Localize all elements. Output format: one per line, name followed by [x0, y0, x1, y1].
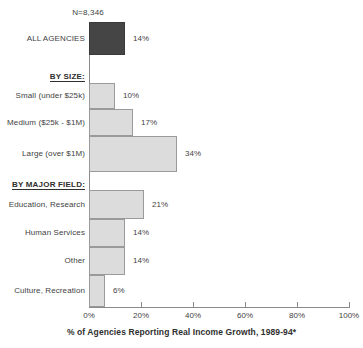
bar-value-label: 10%: [123, 91, 139, 100]
bar-value-label: 34%: [185, 149, 201, 158]
x-axis-tick: [141, 302, 142, 308]
x-axis-tick-label: 20%: [133, 311, 149, 320]
bar-value-label: 17%: [141, 118, 157, 127]
x-axis-tick-label: 80%: [289, 311, 305, 320]
x-axis-tick-label: 60%: [237, 311, 253, 320]
x-axis-tick: [245, 302, 246, 308]
bar: [89, 136, 177, 172]
x-axis-tick-label: 40%: [185, 311, 201, 320]
bar-value-label: 14%: [133, 228, 149, 237]
x-axis-tick: [349, 302, 350, 308]
bar-value-label: 6%: [113, 286, 125, 295]
x-axis-tick-label: 100%: [339, 311, 359, 320]
bar-value-label: 14%: [133, 256, 149, 265]
bar: [89, 275, 105, 307]
bar: [89, 190, 144, 219]
group-header-label: BY SIZE:: [50, 72, 85, 82]
group-header: BY SIZE:: [0, 72, 85, 81]
x-axis-tick: [193, 302, 194, 308]
category-label: Large (over $1M): [0, 149, 85, 158]
category-label: Human Services: [0, 228, 85, 237]
category-label: Other: [0, 256, 85, 265]
category-label: Culture, Recreation: [0, 286, 85, 295]
chart-container: N=8,346 0%20%40%60%80%100%14%10%17%34%21…: [0, 0, 363, 348]
bar-value-label: 21%: [152, 200, 168, 209]
x-axis-tick: [297, 302, 298, 308]
x-axis-title: % of Agencies Reporting Real Income Grow…: [0, 327, 363, 337]
bar: [89, 219, 125, 247]
category-label: Education, Research: [0, 200, 85, 209]
category-label: ALL AGENCIES: [0, 34, 85, 43]
bar: [89, 109, 133, 136]
category-label: Medium ($25k - $1M): [0, 118, 85, 127]
group-header-label: BY MAJOR FIELD:: [12, 180, 85, 190]
bar-value-label: 14%: [133, 34, 149, 43]
category-label: Small (under $25k): [0, 91, 85, 100]
x-axis-line: [89, 307, 350, 308]
bar: [89, 22, 125, 55]
bar: [89, 247, 125, 275]
x-axis-tick-label: 0%: [83, 311, 95, 320]
plot-area: 0%20%40%60%80%100%14%10%17%34%21%14%14%6…: [0, 0, 363, 348]
group-header: BY MAJOR FIELD:: [0, 180, 85, 189]
bar: [89, 83, 115, 109]
